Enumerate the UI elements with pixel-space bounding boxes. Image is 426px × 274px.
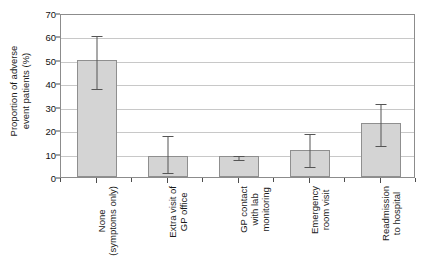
y-axis-title-line-2: event patients (%) xyxy=(20,46,32,137)
x-axis-tick-mark xyxy=(167,178,168,183)
y-axis-tick-mark xyxy=(56,60,60,61)
error-bar-cap-upper xyxy=(375,104,386,105)
y-axis-tick-mark xyxy=(56,131,60,132)
error-bar-line xyxy=(380,104,381,146)
x-axis-tick-label-line: None xyxy=(96,186,107,256)
y-axis-title: Proportion of adverse event patients (%) xyxy=(0,0,40,182)
error-bar-line xyxy=(167,136,168,173)
error-bar-cap-lower xyxy=(91,89,102,90)
bar-group xyxy=(61,15,132,177)
error-bar-cap-lower xyxy=(375,146,386,147)
y-axis-tick-labels: 010203040506070 xyxy=(36,14,56,178)
y-axis-tick-label: 70 xyxy=(45,9,56,20)
error-bar-cap-upper xyxy=(162,136,173,137)
error-bar-cap-lower xyxy=(233,160,244,161)
x-axis-boundary-tick xyxy=(415,178,416,182)
x-axis-tick-label: None(symptoms only) xyxy=(56,186,136,272)
x-axis-tick-label-line: GP contact xyxy=(238,186,249,233)
bar-group xyxy=(345,15,416,177)
y-axis-tick-label: 10 xyxy=(45,149,56,160)
chart-figure: Proportion of adverse event patients (%)… xyxy=(0,0,426,274)
x-axis-boundary-tick xyxy=(273,178,274,182)
x-axis-tick-label-line: GP office xyxy=(178,186,189,238)
y-axis-tick-mark xyxy=(56,84,60,85)
x-axis-tick-label-line: room visit xyxy=(320,186,331,234)
x-axis-tick-mark xyxy=(380,178,381,183)
bar-group xyxy=(203,15,274,177)
x-axis-tick-label-line: to hospital xyxy=(391,186,402,241)
error-bar-cap-lower xyxy=(162,173,173,174)
y-axis-tick-label: 40 xyxy=(45,79,56,90)
y-axis-tick-label: 50 xyxy=(45,55,56,66)
x-axis-tick-mark xyxy=(309,178,310,183)
y-axis-tick-mark xyxy=(56,178,60,179)
x-axis-tick-mark xyxy=(96,178,97,183)
error-bar-line xyxy=(309,134,310,167)
x-axis-boundary-tick xyxy=(60,178,61,182)
x-axis-boundary-tick xyxy=(131,178,132,182)
x-axis-tick-label-line: Readmission xyxy=(380,186,391,241)
bar-series xyxy=(61,15,414,177)
x-axis-tick-label: Extra visit ofGP office xyxy=(127,186,207,272)
y-axis-tick-label: 60 xyxy=(45,32,56,43)
x-axis-tick-label-line: with lab xyxy=(249,186,260,233)
error-bar-cap-lower xyxy=(304,167,315,168)
bar-group xyxy=(132,15,203,177)
y-axis-tick-mark xyxy=(56,107,60,108)
error-bar-cap-upper xyxy=(91,36,102,37)
x-axis-boundary-tick xyxy=(202,178,203,182)
x-axis-boundary-tick xyxy=(344,178,345,182)
y-axis-tick-label: 30 xyxy=(45,102,56,113)
x-axis-tick-label-line: (symptoms only) xyxy=(107,186,118,256)
x-axis-tick-label: GP contactwith labmonitoring xyxy=(198,186,278,272)
y-axis-tick-mark xyxy=(56,14,60,15)
x-axis-tick-label: Emergencyroom visit xyxy=(269,186,349,272)
error-bar-cap-upper xyxy=(233,156,244,157)
x-axis-tick-label: Readmissionto hospital xyxy=(340,186,420,272)
error-bar-line xyxy=(96,36,97,89)
x-axis-tick-label-line: Extra visit of xyxy=(167,186,178,238)
plot-area xyxy=(60,14,415,178)
y-axis-tick-mark xyxy=(56,154,60,155)
y-axis-tick-label: 20 xyxy=(45,126,56,137)
y-axis-tick-mark xyxy=(56,37,60,38)
x-axis-tick-label-line: Emergency xyxy=(309,186,320,234)
error-bar-cap-upper xyxy=(304,134,315,135)
bar-group xyxy=(274,15,345,177)
y-axis-title-line-1: Proportion of adverse xyxy=(8,46,20,137)
x-axis-tick-mark xyxy=(238,178,239,183)
